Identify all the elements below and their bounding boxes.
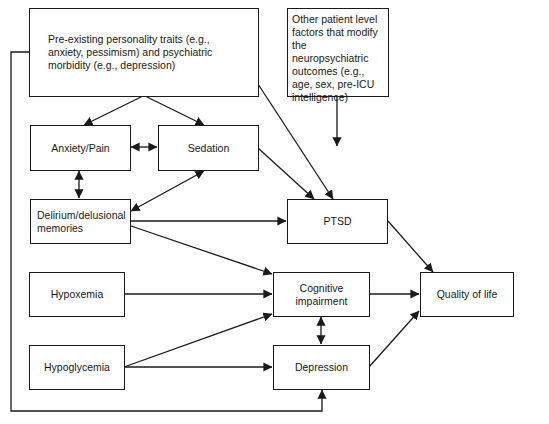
node-label: Hypoxemia xyxy=(51,288,104,301)
edge-preexisting-sedation xyxy=(145,96,204,125)
node-preexisting: Pre-existing personality traits (e.g., a… xyxy=(29,8,259,97)
edge-ptsd-quality xyxy=(388,221,433,272)
node-label: PTSD xyxy=(323,215,351,228)
node-hypoxemia: Hypoxemia xyxy=(29,272,125,317)
node-delirium: Delirium/delusional memories xyxy=(30,199,131,244)
node-quality-of-life: Quality of life xyxy=(420,272,514,317)
node-label: Other patient level factors that modify … xyxy=(292,13,384,104)
node-other-factors: Other patient level factors that modify … xyxy=(287,8,389,97)
node-hypoglycemia: Hypoglycemia xyxy=(29,345,125,390)
node-cognitive-impairment: Cognitive impairment xyxy=(273,272,370,317)
node-sedation: Sedation xyxy=(158,125,259,171)
node-anxiety-pain: Anxiety/Pain xyxy=(30,125,131,171)
node-label: Anxiety/Pain xyxy=(51,142,109,155)
edge-preexisting-anxiety xyxy=(84,96,143,125)
node-label: Cognitive impairment xyxy=(287,282,357,308)
edge-depression-quality xyxy=(369,311,419,367)
node-depression: Depression xyxy=(273,345,370,390)
edge-delirium-cognitive xyxy=(131,226,272,274)
node-label: Delirium/delusional memories xyxy=(37,209,126,235)
edge-sedation-ptsd xyxy=(258,148,314,199)
node-label: Pre-existing personality traits (e.g., a… xyxy=(48,33,243,72)
edge-sedation-delirium xyxy=(131,171,204,211)
node-ptsd: PTSD xyxy=(287,199,388,244)
node-label: Depression xyxy=(295,361,348,374)
edge-hypoglycemia-cognitive xyxy=(124,314,272,367)
node-label: Hypoglycemia xyxy=(44,361,110,374)
node-label: Quality of life xyxy=(437,288,498,301)
node-label: Sedation xyxy=(188,142,229,155)
